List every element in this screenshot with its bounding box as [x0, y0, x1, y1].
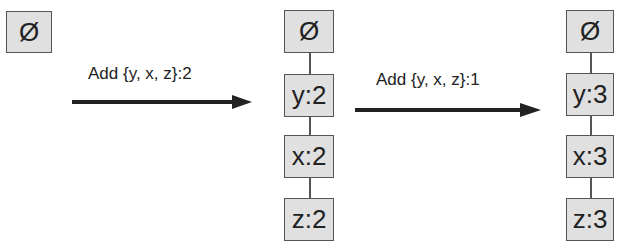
stage-2-root-node: Ø [566, 10, 614, 53]
transition-2-label: Add {y, x, z}:1 [376, 70, 480, 90]
node-label: x:2 [292, 141, 327, 172]
transition-1-arrow-icon [72, 95, 252, 109]
stage-0-root-node: Ø [6, 11, 52, 53]
node-label: Ø [299, 16, 319, 47]
stage-2-node-z: z:3 [566, 198, 614, 241]
node-label: z:3 [573, 204, 608, 235]
node-label: x:3 [573, 141, 608, 172]
node-label: Ø [580, 16, 600, 47]
transition-2-arrow-icon [355, 103, 541, 117]
stage-1-node-y: y:2 [284, 74, 334, 117]
stage-1-node-x: x:2 [284, 135, 334, 178]
node-label: y:2 [292, 80, 327, 111]
stage-2-node-x: x:3 [566, 135, 614, 178]
node-label: y:3 [573, 79, 608, 110]
node-label: Ø [19, 17, 39, 48]
stage-2-node-y: y:3 [566, 73, 614, 116]
stage-1-node-z: z:2 [284, 198, 334, 241]
node-label: z:2 [292, 204, 327, 235]
stage-1-root-node: Ø [284, 10, 334, 53]
transition-1-label: Add {y, x, z}:2 [88, 64, 192, 84]
